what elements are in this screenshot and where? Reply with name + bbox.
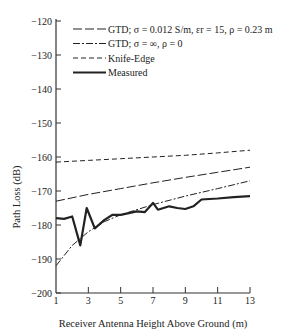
x-axis-label: Receiver Antenna Height Above Ground (m)	[59, 318, 248, 330]
x-tick-label: 11	[213, 295, 223, 306]
x-tick-label: 3	[86, 295, 91, 306]
series-line	[56, 167, 250, 201]
y-tick-label: −200	[31, 288, 52, 299]
x-tick-label: 5	[118, 295, 123, 306]
series-line	[56, 196, 250, 245]
x-tick-label: 1	[54, 295, 59, 306]
y-tick-label: −190	[31, 254, 52, 265]
y-axis-label: Path Loss (dB)	[11, 165, 23, 229]
y-tick-label: −130	[31, 50, 52, 61]
legend-label: Measured	[108, 67, 147, 78]
y-tick-label: −170	[31, 186, 52, 197]
y-tick-label: −160	[31, 152, 52, 163]
legend-label: GTD; σ = 0.012 S/m, εr = 15, ρ = 0.23 m	[108, 24, 273, 35]
x-tick-label: 13	[245, 295, 255, 306]
y-tick-label: −180	[31, 220, 52, 231]
y-tick-label: −120	[31, 16, 52, 27]
x-tick-label: 9	[183, 295, 188, 306]
x-tick-label: 7	[151, 295, 156, 306]
y-tick-label: −150	[31, 118, 52, 129]
legend-label: GTD; σ = ∞, ρ = 0	[108, 38, 183, 49]
y-tick-label: −140	[31, 84, 52, 95]
line-chart: −120−130−140−150−160−170−180−190−2001357…	[0, 0, 281, 332]
series-line	[56, 150, 250, 162]
legend-label: Knife-Edge	[108, 53, 155, 64]
chart-figure: −120−130−140−150−160−170−180−190−2001357…	[0, 0, 281, 332]
